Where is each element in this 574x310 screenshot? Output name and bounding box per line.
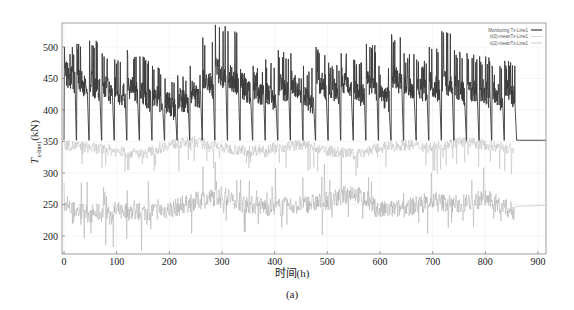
y-tick-label: 250 <box>43 199 58 210</box>
y-axis-title-sub: x-line1 <box>36 141 42 158</box>
x-tick-label: 600 <box>373 256 388 267</box>
svg-text:Tx-line1(kN): Tx-line1(kN) <box>28 120 42 164</box>
y-axis-title: Tx-line1(kN) <box>28 120 42 164</box>
figure-caption: (a) <box>286 288 299 301</box>
legend-label: ti(2)-meanTx-Line1 <box>490 41 529 46</box>
x-tick-label: 800 <box>478 256 493 267</box>
x-tick-label: 0 <box>62 256 67 267</box>
x-tick-label: 400 <box>267 256 282 267</box>
x-tick-label: 200 <box>162 256 177 267</box>
x-axis-title: 时间(h) <box>275 267 310 280</box>
y-tick-label: 450 <box>43 73 58 84</box>
x-tick-label: 700 <box>425 256 440 267</box>
series-ti2-mean-line <box>64 157 545 251</box>
series-ti0-mean-line <box>64 136 514 176</box>
y-tick-label: 300 <box>43 168 58 179</box>
y-tick-label: 200 <box>43 231 58 242</box>
y-tick-label: 500 <box>43 42 58 53</box>
y-tick-label: 350 <box>43 136 58 147</box>
series-layer <box>64 25 546 251</box>
line-chart: 0100200300400500600700800900 20025030035… <box>0 0 574 310</box>
legend-label: ti(0)-meanTx-Line1 <box>490 34 529 39</box>
x-tick-label: 300 <box>215 256 230 267</box>
y-tick-label: 400 <box>43 105 58 116</box>
legend: Monitoring Tx-Line1ti(0)-meanTx-Line1ti(… <box>470 25 544 47</box>
legend-label: Monitoring Tx-Line1 <box>488 28 528 33</box>
x-tick-label: 100 <box>109 256 124 267</box>
x-axis: 0100200300400500600700800900 <box>62 251 546 267</box>
y-axis-title-unit: (kN) <box>28 120 41 141</box>
x-tick-label: 500 <box>320 256 335 267</box>
x-tick-label: 900 <box>531 256 546 267</box>
